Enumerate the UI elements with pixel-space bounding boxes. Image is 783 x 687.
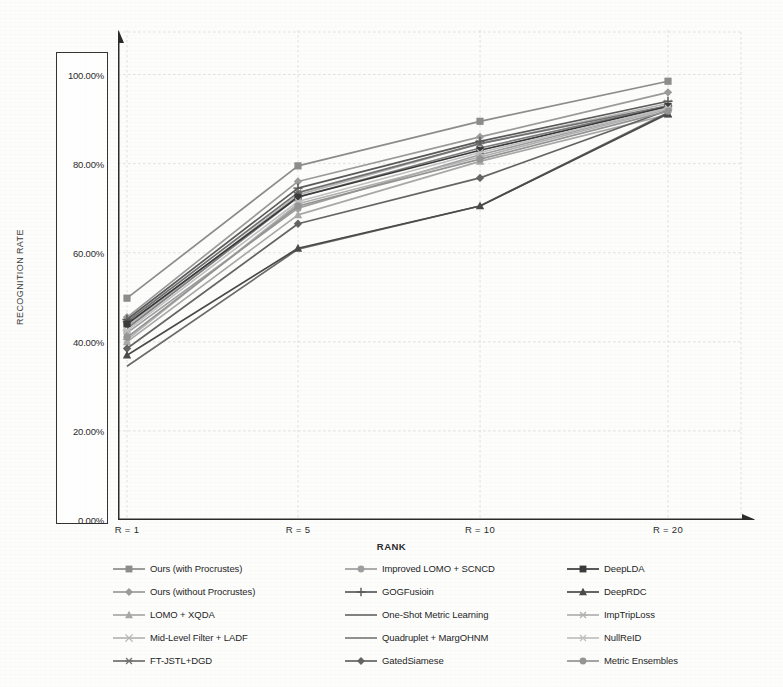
data-point-square-icon bbox=[476, 118, 483, 125]
series-line bbox=[123, 110, 672, 345]
legend-label: One-Shot Metric Learning bbox=[382, 609, 488, 620]
legend-label: GatedSiamese bbox=[382, 655, 444, 666]
marker-circle-icon bbox=[358, 565, 365, 572]
marker-square-icon bbox=[580, 565, 587, 572]
legend-swatch-none-icon bbox=[344, 631, 378, 645]
data-point-triangle-icon bbox=[123, 351, 131, 359]
marker-asterisk-icon bbox=[579, 635, 587, 641]
legend-swatch-triangle-icon bbox=[566, 585, 600, 599]
legend-swatch-none-icon bbox=[344, 608, 378, 622]
series-polyline bbox=[127, 111, 668, 337]
cmc-chart-figure: RECOGNITION RATE 0.00%20.00%40.00%60.00%… bbox=[0, 0, 783, 687]
legend-item[interactable]: Metric Ensembles bbox=[566, 649, 772, 672]
legend-item[interactable]: ImpTripLoss bbox=[566, 603, 772, 626]
y-axis-tick-box bbox=[56, 52, 108, 524]
legend-swatch-diamond-icon bbox=[112, 585, 146, 599]
legend-item[interactable]: Quadruplet + MargOHNM bbox=[344, 626, 566, 649]
marker-circle-icon bbox=[580, 657, 587, 664]
data-point-square-icon bbox=[294, 162, 301, 169]
legend-label: DeepRDC bbox=[604, 586, 647, 597]
y-axis-tick-label: 60.00% bbox=[73, 247, 104, 258]
data-point-circle-icon bbox=[123, 334, 130, 341]
legend-label: NullReID bbox=[604, 632, 641, 643]
legend-swatch-plus-icon bbox=[344, 585, 378, 599]
y-axis-label: RECOGNITION RATE bbox=[15, 197, 25, 357]
y-axis-tick-label: 20.00% bbox=[73, 425, 104, 436]
legend-swatch-asterisk-icon bbox=[566, 631, 600, 645]
data-point-diamond-icon bbox=[476, 174, 484, 182]
marker-diamond-icon bbox=[357, 657, 365, 665]
series-line bbox=[123, 106, 672, 353]
gridlines bbox=[118, 30, 741, 520]
x-axis-tick-label: R = 10 bbox=[465, 524, 495, 535]
legend-swatch-circle-icon bbox=[344, 562, 378, 576]
legend-swatch-square-icon bbox=[112, 562, 146, 576]
legend-swatch-cross-icon bbox=[112, 631, 146, 645]
legend-item[interactable]: NullReID bbox=[566, 626, 772, 649]
legend-swatch-square-icon bbox=[566, 562, 600, 576]
legend-item[interactable]: Ours (with Procrustes) bbox=[112, 557, 344, 580]
legend-item[interactable]: One-Shot Metric Learning bbox=[344, 603, 566, 626]
legend-swatch-asterisk-icon bbox=[112, 654, 146, 668]
y-axis-tick-label: 100.00% bbox=[68, 69, 104, 80]
y-axis-tick-label: 40.00% bbox=[73, 336, 104, 347]
y-axis-tick-label: 80.00% bbox=[73, 158, 104, 169]
x-axis-tick-label: R = 1 bbox=[115, 524, 139, 535]
marker-square-icon bbox=[126, 565, 133, 572]
data-point-square-icon bbox=[664, 78, 671, 85]
legend-swatch-asterisk-icon bbox=[566, 608, 600, 622]
legend-label: DeepLDA bbox=[604, 563, 645, 574]
legend-item[interactable]: GOGFusioin bbox=[344, 580, 566, 603]
legend-item[interactable]: Mid-Level Filter + LADF bbox=[112, 626, 344, 649]
x-axis-label: RANK bbox=[0, 541, 783, 552]
legend-label: Mid-Level Filter + LADF bbox=[150, 632, 248, 643]
legend-label: ImpTripLoss bbox=[604, 609, 655, 620]
series-polyline bbox=[127, 110, 668, 348]
legend-label: GOGFusioin bbox=[382, 586, 434, 597]
y-axis-tick-label: 0.00% bbox=[78, 515, 104, 526]
chart-legend: Ours (with Procrustes)Improved LOMO + SC… bbox=[112, 557, 772, 672]
legend-item[interactable]: GatedSiamese bbox=[344, 649, 566, 672]
legend-label: Quadruplet + MargOHNM bbox=[382, 632, 488, 643]
marker-plus-icon bbox=[357, 587, 366, 596]
series-lines-layer bbox=[122, 78, 672, 367]
legend-item[interactable]: Improved LOMO + SCNCD bbox=[344, 557, 566, 580]
legend-item[interactable]: Ours (without Procrustes) bbox=[112, 580, 344, 603]
legend-label: Metric Ensembles bbox=[604, 655, 678, 666]
legend-item[interactable]: DeepLDA bbox=[566, 557, 772, 580]
data-point-diamond-icon bbox=[664, 88, 672, 96]
series-polyline bbox=[127, 115, 668, 342]
plot-area bbox=[118, 30, 755, 520]
legend-swatch-triangle-icon bbox=[112, 608, 146, 622]
x-axis-tick-label: R = 20 bbox=[653, 524, 683, 535]
marker-asterisk-icon bbox=[579, 612, 587, 618]
legend-label: Ours (with Procrustes) bbox=[150, 563, 242, 574]
legend-swatch-diamond-icon bbox=[344, 654, 378, 668]
data-point-circle-icon bbox=[664, 107, 671, 114]
marker-diamond-icon bbox=[125, 588, 133, 596]
series-line bbox=[123, 109, 672, 358]
x-axis-arrow bbox=[118, 514, 755, 520]
legend-item[interactable]: DeepRDC bbox=[566, 580, 772, 603]
data-point-square-icon bbox=[123, 320, 130, 327]
series-polyline bbox=[127, 112, 668, 366]
marker-asterisk-icon bbox=[125, 658, 133, 664]
series-line bbox=[127, 112, 668, 366]
series-line bbox=[123, 103, 671, 328]
legend-label: Improved LOMO + SCNCD bbox=[382, 563, 495, 574]
x-axis-tick-label: R = 5 bbox=[286, 524, 310, 535]
legend-item[interactable]: FT-JSTL+DGD bbox=[112, 649, 344, 672]
chart-svg bbox=[118, 30, 755, 520]
legend-item[interactable]: LOMO + XQDA bbox=[112, 603, 344, 626]
data-point-square-icon bbox=[123, 295, 130, 302]
legend-label: Ours (without Procrustes) bbox=[150, 586, 255, 597]
series-polyline bbox=[127, 104, 668, 327]
legend-label: LOMO + XQDA bbox=[150, 609, 215, 620]
legend-swatch-circle-icon bbox=[566, 654, 600, 668]
y-axis-arrow bbox=[118, 30, 124, 520]
legend-label: FT-JSTL+DGD bbox=[150, 655, 212, 666]
data-point-circle-icon bbox=[294, 202, 301, 209]
data-point-circle-icon bbox=[476, 156, 483, 163]
